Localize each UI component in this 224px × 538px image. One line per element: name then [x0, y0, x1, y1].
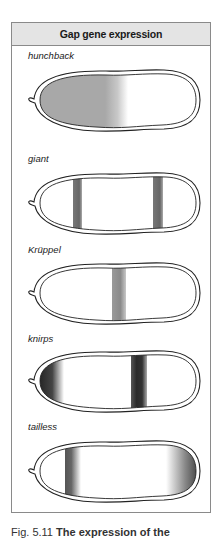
figure-caption-label: Fig. 5.11: [11, 526, 53, 538]
gene-label-kruppel: Krüppel: [28, 244, 61, 255]
gene-label-knirps: knirps: [28, 333, 53, 344]
gene-label-tailless: tailless: [28, 421, 57, 432]
gene-label-hunchback: hunchback: [28, 50, 74, 61]
embryo-hunchback: [26, 68, 202, 132]
embryo-knirps: [26, 349, 202, 413]
gap-gene-panel: Gap gene expression hunchback giant: [11, 22, 211, 513]
expression-band-anterior: [73, 171, 82, 235]
embryo-tailless: [26, 439, 202, 503]
gene-label-giant: giant: [28, 153, 49, 164]
embryo-kruppel: [26, 261, 202, 325]
expression-band-central: [112, 261, 126, 325]
figure-caption-text: The expression of the: [56, 526, 170, 538]
expression-band-posterior: [153, 171, 163, 235]
embryo-giant: [26, 171, 202, 235]
expression-band-posterior: [131, 349, 147, 413]
figure-caption: Fig. 5.11 The expression of the: [11, 526, 170, 538]
panel-title: Gap gene expression: [12, 23, 210, 46]
